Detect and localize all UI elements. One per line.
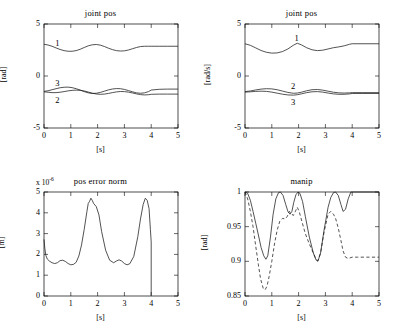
subplot-title: joint pos	[0, 8, 201, 18]
curve-label: 2	[291, 81, 295, 91]
subplot-title: joint pos	[201, 8, 402, 18]
y-tick-label: 0.85	[211, 291, 241, 300]
y-tick-label: 2	[10, 249, 40, 258]
y-tick-label: 0.95	[211, 222, 241, 231]
x-tick-label: 4	[139, 299, 163, 308]
y-tick-label: 0	[10, 71, 40, 80]
x-tick-label: 2	[86, 299, 110, 308]
y-tick-label: 1	[10, 270, 40, 279]
y-tick-label: -5	[10, 123, 40, 132]
data-trace	[245, 43, 379, 53]
y-tick-label: 5	[211, 19, 241, 28]
y-tick-label: 4	[10, 208, 40, 217]
y-axis-label: [rad/s]	[203, 64, 212, 85]
x-tick-label: 4	[139, 131, 163, 140]
data-trace	[245, 192, 379, 290]
x-tick-label: 0	[32, 131, 56, 140]
x-tick-label: 0	[233, 131, 257, 140]
y-tick-label: 1	[211, 187, 241, 196]
y-axis-label: [m]	[0, 237, 6, 249]
exponent-mantissa: x 10	[36, 178, 49, 187]
x-tick-label: 4	[340, 299, 364, 308]
axes-frame	[245, 24, 379, 128]
y-tick-label: -5	[211, 123, 241, 132]
x-tick-label: 5	[367, 131, 391, 140]
data-trace	[44, 87, 178, 93]
axis-exponent-label: x 10-6	[36, 176, 54, 187]
x-tick-label: 5	[166, 299, 190, 308]
x-tick-label: 5	[367, 299, 391, 308]
curve-label: 1	[295, 33, 299, 43]
x-tick-label: 1	[260, 131, 284, 140]
x-axis-label: [s]	[201, 145, 402, 154]
figure-canvas: joint pos012345-505[s][rad]132 joint pos…	[0, 0, 402, 336]
data-trace	[44, 198, 151, 295]
subplot-pos-error-norm-bottom-left: pos error normx 10-6012345012345[s][m]	[0, 168, 201, 336]
x-tick-label: 1	[260, 299, 284, 308]
x-tick-label: 0	[233, 299, 257, 308]
curve-label: 1	[55, 38, 59, 48]
y-axis-label: [rad]	[200, 235, 209, 251]
subplot-joint-pos-top-left: joint pos012345-505[s][rad]132	[0, 0, 201, 168]
axes-frame	[44, 192, 178, 296]
subplot-joint-pos-top-right: joint pos012345-505[s][rad/s]123	[201, 0, 402, 168]
x-axis-label: [s]	[0, 145, 201, 154]
x-tick-label: 0	[32, 299, 56, 308]
y-tick-label: 5	[10, 187, 40, 196]
x-tick-label: 5	[166, 131, 190, 140]
y-tick-label: 0	[10, 291, 40, 300]
x-axis-label: [s]	[0, 313, 201, 322]
x-tick-label: 1	[59, 299, 83, 308]
x-tick-label: 3	[112, 299, 136, 308]
axes-frame	[245, 192, 379, 296]
x-tick-label: 3	[112, 131, 136, 140]
curve-label: 3	[291, 97, 295, 107]
x-tick-label: 2	[287, 299, 311, 308]
data-trace	[44, 90, 178, 95]
subplot-title: manip	[201, 176, 402, 186]
x-tick-label: 3	[313, 131, 337, 140]
data-trace	[44, 44, 178, 51]
subplot-title: pos error norm	[0, 176, 201, 186]
y-axis-label: [rad]	[0, 67, 8, 83]
x-axis-label: [s]	[201, 313, 402, 322]
subplot-manip-bottom-right: manip0123450.850.90.951[s][rad]	[201, 168, 402, 336]
y-tick-label: 3	[10, 229, 40, 238]
y-tick-label: 0.9	[211, 256, 241, 265]
y-tick-label: 0	[211, 71, 241, 80]
curve-label: 3	[55, 78, 59, 88]
y-tick-label: 5	[10, 19, 40, 28]
x-tick-label: 2	[86, 131, 110, 140]
x-tick-label: 1	[59, 131, 83, 140]
data-trace	[245, 91, 379, 95]
exponent-power: -6	[49, 176, 54, 182]
x-tick-label: 2	[287, 131, 311, 140]
x-tick-label: 3	[313, 299, 337, 308]
axes-frame	[44, 24, 178, 128]
curve-label: 2	[55, 95, 59, 105]
data-trace	[245, 192, 379, 261]
x-tick-label: 4	[340, 131, 364, 140]
